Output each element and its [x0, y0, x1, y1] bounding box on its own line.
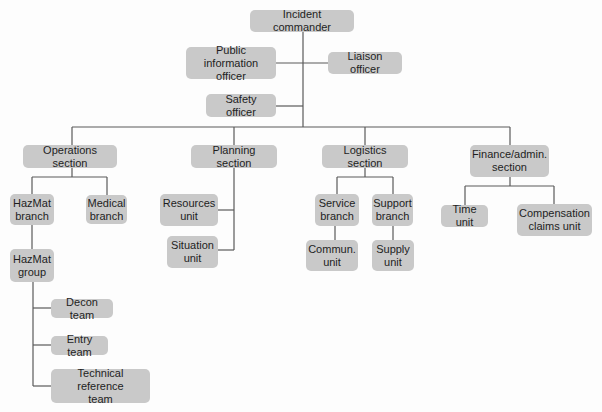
- node-entry-team: Entry team: [51, 336, 108, 355]
- node-situation-unit: Situation unit: [167, 236, 218, 268]
- node-public-information-officer: Public information officer: [186, 47, 276, 79]
- node-supply-unit: Supply unit: [372, 240, 414, 271]
- node-incident-commander: Incident commander: [250, 10, 354, 32]
- node-decon-team: Decon team: [51, 299, 113, 318]
- node-safety-officer: Safety officer: [206, 94, 276, 117]
- node-operations-section: Operations section: [23, 145, 117, 168]
- node-support-branch: Support branch: [372, 194, 413, 226]
- node-liaison-officer: Liaison officer: [328, 52, 402, 74]
- node-service-branch: Service branch: [315, 194, 359, 226]
- node-hazmat-group: HazMat group: [10, 249, 54, 282]
- node-planning-section: Planning section: [191, 145, 277, 168]
- node-technical-reference-team: Technical reference team: [51, 369, 150, 403]
- node-resources-unit: Resources unit: [160, 194, 218, 226]
- node-commun-unit: Commun. unit: [306, 240, 358, 271]
- node-hazmat-branch: HazMat branch: [10, 194, 54, 225]
- node-finance-admin-section: Finance/admin. section: [470, 145, 549, 177]
- org-chart: Incident commander Public information of…: [0, 0, 602, 412]
- node-time-unit: Time unit: [441, 205, 488, 227]
- node-compensation-claims-unit: Compensation claims unit: [517, 204, 592, 236]
- node-logistics-section: Logistics section: [322, 145, 408, 168]
- node-medical-branch: Medical branch: [86, 195, 127, 224]
